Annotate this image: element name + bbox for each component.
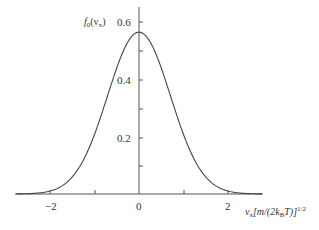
x-axis-label: vx[m/(2kBT)]1/2 [245, 205, 307, 219]
y-tick-label-0.2: 0.2 [117, 132, 131, 144]
y-tick-label-0.6: 0.6 [117, 16, 131, 28]
x-tick-label-neg2: −2 [45, 200, 57, 212]
x-tick-label-2: 2 [225, 200, 231, 212]
gaussian-distribution-chart: 0.6 0.4 0.2 −2 0 2 f0(vx) vx[m/(2kBT)]1/… [0, 0, 319, 230]
y-tick-label-0.4: 0.4 [117, 74, 131, 86]
y-axis-label: f0(vx) [84, 16, 105, 29]
y-ticks [139, 22, 143, 166]
x-tick-label-0: 0 [136, 200, 142, 212]
